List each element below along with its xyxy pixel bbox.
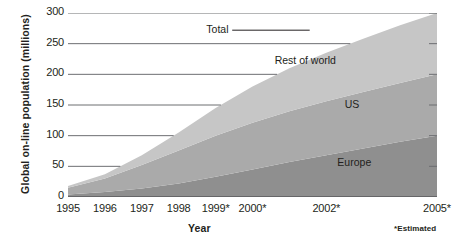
- x-tick-label: 1997: [130, 202, 154, 214]
- y-tick-label: 0: [36, 189, 64, 201]
- x-tick-label: 2002*: [312, 202, 340, 214]
- y-tick-label: 200: [36, 66, 64, 78]
- annotation-us: US: [345, 98, 360, 110]
- y-tick-label: 250: [36, 36, 64, 48]
- y-tick-label: 100: [36, 128, 64, 140]
- x-tick-label: 1996: [93, 202, 117, 214]
- x-tick-label: 1995: [56, 202, 80, 214]
- x-axis-tick-labels: 19951996199719981999*2000*2002*2005*: [0, 202, 475, 218]
- annotation-rest-of-world: Rest of world: [275, 54, 336, 66]
- y-tick-label: 50: [36, 158, 64, 170]
- stacked-area-svg: [68, 13, 437, 197]
- plot-area: [68, 13, 437, 197]
- estimated-footnote: *Estimated: [394, 224, 436, 233]
- x-tick-label: 1998: [167, 202, 191, 214]
- chart-figure: Global on-line population (millions) 050…: [0, 0, 475, 247]
- x-tick-label: 2000*: [239, 202, 267, 214]
- y-tick-label: 300: [36, 5, 64, 17]
- x-axis-title: Year: [188, 222, 211, 234]
- y-tick-label: 150: [36, 97, 64, 109]
- x-tick-label: 2005*: [423, 202, 451, 214]
- x-tick-label: 1999*: [202, 202, 230, 214]
- annotation-total: Total: [206, 23, 228, 35]
- y-axis-title: Global on-line population (millions): [19, 9, 31, 199]
- annotation-europe: Europe: [337, 156, 371, 168]
